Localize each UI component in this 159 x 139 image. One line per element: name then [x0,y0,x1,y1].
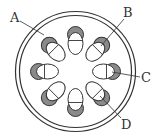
label-d: D [121,117,131,132]
vascular-bundle [38,78,69,109]
label-a: A [9,10,20,25]
vascular-bundle [68,89,84,117]
bundle-inner-body [93,64,115,79]
stem-cross-section-diagram: ABCD [0,0,159,139]
label-b: B [123,5,133,20]
bundle-inner-body [37,64,59,79]
vascular-bundle [93,64,121,80]
vascular-bundle [31,64,59,80]
vascular-bundle [38,34,69,65]
vascular-bundle [68,27,84,55]
bundle-inner-body [68,89,83,111]
label-c: C [141,70,151,85]
vascular-bundle [82,34,113,65]
bundle-inner-body [68,33,83,55]
